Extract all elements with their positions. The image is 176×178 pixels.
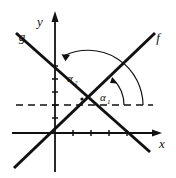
geometry-figure: y x f g α 1 α 2 [0,0,176,178]
angle-arc-alpha-1 [110,77,124,105]
alpha-2-symbol: α [67,72,73,84]
alpha-2-arrowhead [62,54,71,61]
line-f [14,33,155,168]
line-g-label: g [19,29,26,44]
line-f-label: f [156,30,162,45]
alpha-1-symbol: α [100,91,106,103]
y-axis-arrowhead [52,11,59,22]
alpha-1-arrowhead [110,77,118,84]
y-axis-label: y [35,14,43,29]
intersection-point-dot [80,97,83,100]
alpha-2-subscript: 2 [74,79,78,87]
figure-canvas: y x f g α 1 α 2 [0,0,176,178]
alpha-1-subscript: 1 [107,98,111,106]
angle-label-alpha-1: α 1 [100,91,111,106]
x-axis-label: x [158,136,165,151]
